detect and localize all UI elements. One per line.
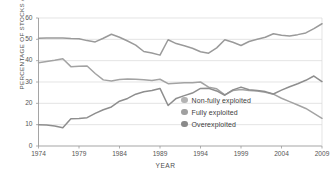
- x-tick-label: 1974: [24, 150, 54, 157]
- x-tick-label: 2004: [267, 150, 297, 157]
- x-tick-label: 1994: [186, 150, 216, 157]
- x-tick-label: 1999: [226, 150, 256, 157]
- legend-label: Fully exploited: [192, 109, 238, 116]
- y-tick-label: 40: [17, 56, 33, 63]
- chart-legend: Non-fully exploitedFully exploitedOverex…: [181, 94, 251, 130]
- legend-label: Non-fully exploited: [192, 97, 252, 104]
- legend-swatch-icon: [181, 109, 188, 116]
- y-tick-label: 60: [17, 14, 33, 21]
- y-tick-label: 0: [17, 142, 33, 149]
- x-tick-label: 2009: [307, 150, 331, 157]
- legend-label: Overexploited: [192, 121, 237, 128]
- y-tick-label: 50: [17, 35, 33, 42]
- y-tick-label: 20: [17, 99, 33, 106]
- x-tick-label: 1979: [64, 150, 94, 157]
- y-tick-label: 30: [17, 78, 33, 85]
- legend-item: Overexploited: [181, 118, 251, 130]
- x-tick-label: 1984: [105, 150, 135, 157]
- legend-swatch-icon: [181, 121, 188, 128]
- legend-item: Non-fully exploited: [181, 94, 251, 106]
- legend-swatch-icon: [181, 97, 188, 104]
- x-axis-label: YEAR: [0, 162, 331, 169]
- y-tick-label: 10: [17, 120, 33, 127]
- line-chart: PERCENTAGE OF STOCKS ASSESSED YEAR 01020…: [0, 0, 331, 177]
- x-tick-label: 1989: [145, 150, 175, 157]
- legend-item: Fully exploited: [181, 106, 251, 118]
